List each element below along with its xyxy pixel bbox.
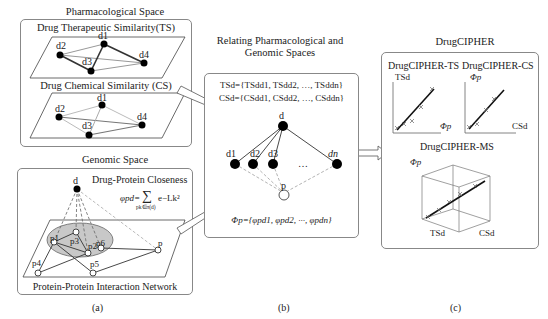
ms-plot-zlabel: Φp [410,157,421,167]
caption-c: (c) [450,302,461,313]
ms-plot-ylabel: CSd [479,228,495,238]
drugcipher-plots [0,0,548,319]
ms-plot-xlabel: TSd [430,228,445,238]
ms-plot-title: DrugCIPHER-MS [420,141,494,152]
